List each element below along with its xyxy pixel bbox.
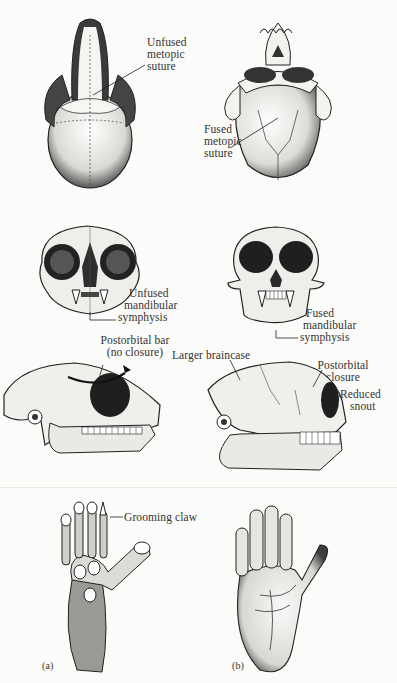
skull-top-illustration [40, 15, 150, 175]
skull-side-illustration [0, 355, 170, 460]
label-unfused-mandibular-symphysis: Unfused mandibular symphysis [118, 287, 177, 323]
panel-label-b: (b) [232, 660, 244, 672]
label-grooming-claw: Grooming claw [124, 511, 197, 523]
section-divider [0, 487, 397, 488]
panel-label-a: (a) [42, 660, 53, 672]
label-unfused-metopic-suture: Unfused metopic suture [147, 36, 187, 72]
skull-side-illustration [200, 360, 360, 472]
prosimian-hand [42, 500, 152, 675]
anthropoid-skull-side-view [200, 360, 360, 472]
label-fused-metopic-suture: Fused metopic suture [204, 123, 242, 159]
hand-illustration [230, 500, 340, 675]
label-fused-mandibular-symphysis: Fused mandibular symphysis [300, 307, 356, 343]
hand-illustration [42, 500, 152, 675]
anthropoid-hand [230, 500, 340, 675]
prosimian-skull-side-view [0, 355, 170, 460]
prosimian-skull-top-view [40, 15, 150, 175]
